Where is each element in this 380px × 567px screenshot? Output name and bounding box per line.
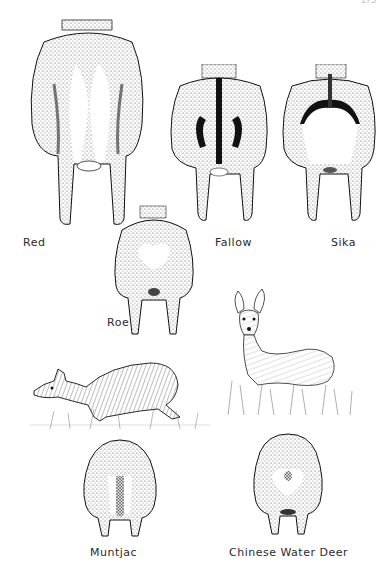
figure-label-sika: Sika [331, 236, 356, 249]
figure-label-fallow: Fallow [215, 236, 252, 249]
page-number: 173 [361, 0, 376, 5]
figure-label-red: Red [23, 236, 45, 249]
figure-label-muntjac: Muntjac [90, 546, 137, 559]
chinese-water-deer-front-illustration [218, 285, 358, 420]
figure-label-roe: Roe [107, 316, 129, 329]
sika-deer-rear-illustration [280, 64, 380, 234]
chinese-water-deer-rear-illustration [250, 430, 326, 538]
figure-label-chinese-water-deer: Chinese Water Deer [229, 546, 348, 559]
muntjac-side-illustration [30, 355, 210, 430]
muntjac-rear-illustration [80, 436, 160, 540]
